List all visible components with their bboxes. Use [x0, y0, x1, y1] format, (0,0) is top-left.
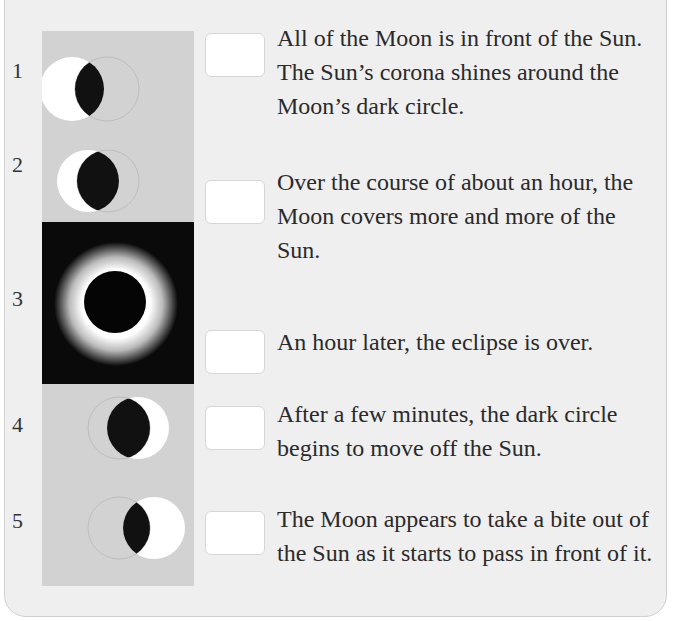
statement-5-text: The Moon appears to take a bite out of t… — [277, 502, 662, 570]
statement-3-text: An hour later, the eclipse is over. — [277, 325, 662, 359]
step-number-1: 1 — [12, 58, 23, 84]
answer-box-3[interactable] — [205, 330, 265, 374]
statement-2-text: Over the course of about an hour, the Mo… — [277, 165, 662, 267]
step-number-3: 3 — [12, 286, 23, 312]
eclipse-phase-5-image — [42, 493, 194, 593]
eclipse-phase-3-image — [42, 222, 194, 384]
answer-box-1[interactable] — [205, 33, 265, 77]
eclipse-image-strip — [42, 31, 194, 586]
answer-box-4[interactable] — [205, 406, 265, 450]
answer-box-5[interactable] — [205, 511, 265, 555]
step-number-5: 5 — [12, 508, 23, 534]
step-number-4: 4 — [12, 412, 23, 438]
eclipse-phase-1-image — [42, 51, 194, 151]
step-number-2: 2 — [12, 152, 23, 178]
eclipse-phase-4-image — [42, 390, 194, 490]
statement-1-text: All of the Moon is in front of the Sun. … — [277, 21, 662, 123]
statement-4-text: After a few minutes, the dark circle beg… — [277, 397, 662, 465]
answer-box-2[interactable] — [205, 180, 265, 224]
